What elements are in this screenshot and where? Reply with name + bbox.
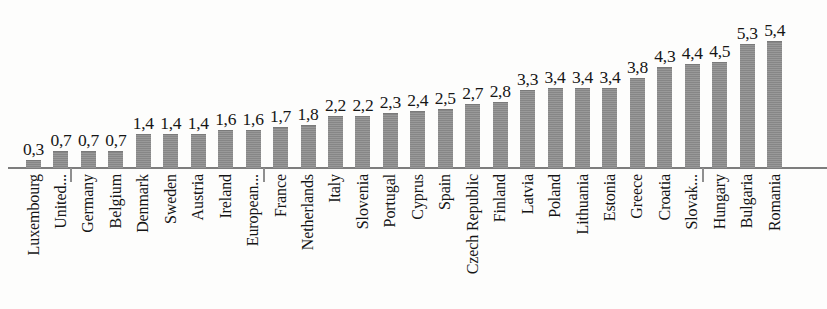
axis-tick-1 (70, 168, 72, 182)
category-label-text: Denmark (135, 174, 151, 233)
category-label-text: United... (53, 174, 69, 229)
category-label-text: Germany (80, 174, 96, 233)
bar-rect (301, 125, 316, 168)
bar-rect (410, 111, 425, 168)
bar-bulgaria: 5,3 (740, 45, 755, 168)
bar-value-label: 0,3 (23, 141, 44, 159)
category-label-text: Lithuania (575, 174, 591, 234)
category-label-10: France (273, 174, 288, 304)
bar-rect (53, 151, 68, 168)
bar-value-label: 0,7 (78, 132, 99, 150)
bar-rect (602, 88, 617, 168)
bar-italy: 2,2 (328, 117, 343, 168)
bar-rect (191, 134, 206, 168)
category-label-6: Sweden (163, 174, 178, 304)
bar-chart: 0,30,70,70,71,41,41,41,61,61,71,82,22,22… (0, 0, 827, 309)
category-label-26: Hungary (712, 174, 727, 304)
bar-rect (548, 88, 563, 168)
category-label-text: Sweden (163, 174, 179, 224)
category-label-text: Slovenia (355, 174, 371, 229)
bar-portugal: 2,3 (383, 114, 398, 168)
category-label-text: France (273, 174, 289, 217)
bar-value-label: 4,4 (682, 45, 703, 63)
category-label-28: Romania (767, 174, 782, 304)
category-label-text: Czech Republic (465, 174, 481, 274)
bar-luxembourg: 0,3 (26, 161, 41, 168)
bar-rect (740, 44, 755, 168)
bar-greece: 3,8 (630, 79, 645, 168)
bar-sweden: 1,4 (163, 135, 178, 168)
bar-value-label: 5,4 (764, 22, 785, 40)
category-label-9: European... (246, 174, 261, 304)
category-label-11: Netherlands (301, 174, 316, 304)
bar-value-label: 1,6 (215, 111, 236, 129)
bar-rect (383, 113, 398, 168)
bar-united: 0,7 (53, 152, 68, 168)
axis-tick-2 (263, 168, 265, 182)
bar-finland: 2,8 (493, 103, 508, 168)
bar-value-label: 2,8 (490, 83, 511, 101)
category-label-7: Austria (191, 174, 206, 304)
bar-romania: 5,4 (767, 42, 782, 168)
category-label-14: Portugal (383, 174, 398, 304)
bar-value-label: 2,7 (462, 85, 483, 103)
bar-czech-republic: 2,7 (465, 105, 480, 168)
bar-denmark: 1,4 (136, 135, 151, 168)
bar-rect (712, 62, 727, 168)
category-label-4: Belgium (108, 174, 123, 304)
bar-latvia: 3,3 (520, 91, 535, 168)
axis-tick-3 (702, 168, 704, 182)
category-label-text: Estonia (602, 174, 618, 221)
bar-value-label: 2,2 (352, 97, 373, 115)
bar-rect (246, 130, 261, 168)
bar-rect (163, 134, 178, 168)
bar-hungary: 4,5 (712, 63, 727, 168)
category-label-text: Austria (190, 174, 206, 220)
bar-value-label: 0,7 (105, 132, 126, 150)
category-label-5: Denmark (136, 174, 151, 304)
bar-croatia: 4,3 (657, 68, 672, 168)
bar-rect (136, 134, 151, 168)
bar-france: 1,7 (273, 128, 288, 168)
bar-rect (575, 88, 590, 168)
category-label-27: Bulgaria (740, 174, 755, 304)
category-label-text: Romania (767, 174, 783, 231)
category-label-text: Italy (327, 174, 343, 203)
category-label-2: United... (53, 174, 68, 304)
category-label-text: Belgium (108, 174, 124, 228)
bar-rect (218, 130, 233, 168)
bar-value-label: 1,4 (188, 115, 209, 133)
bar-rect (657, 67, 672, 168)
bar-rect (81, 151, 96, 168)
category-label-text: Ireland (218, 174, 234, 219)
bar-austria: 1,4 (191, 135, 206, 168)
bar-netherlands: 1,8 (301, 126, 316, 168)
category-label-18: Finland (493, 174, 508, 304)
bar-slovenia: 2,2 (355, 117, 370, 168)
bar-value-label: 1,6 (243, 111, 264, 129)
bar-germany: 0,7 (81, 152, 96, 168)
bar-value-label: 3,4 (599, 69, 620, 87)
bar-value-label: 5,3 (737, 25, 758, 43)
bar-value-label: 3,3 (517, 71, 538, 89)
bar-spain: 2,5 (438, 110, 453, 168)
bar-rect (273, 127, 288, 168)
bar-rect (438, 109, 453, 168)
bar-rect (520, 90, 535, 168)
bar-value-label: 2,2 (325, 97, 346, 115)
category-label-16: Spain (438, 174, 453, 304)
category-label-25: Slovak... (685, 174, 700, 304)
bar-value-label: 1,8 (298, 106, 319, 124)
category-label-text: Portugal (382, 174, 398, 227)
category-label-19: Latvia (520, 174, 535, 304)
category-label-23: Greece (630, 174, 645, 304)
category-label-8: Ireland (218, 174, 233, 304)
bar-european: 1,6 (246, 131, 261, 168)
bar-rect (493, 102, 508, 168)
category-label-1: Luxembourg (26, 174, 41, 304)
category-label-22: Estonia (602, 174, 617, 304)
category-label-text: Spain (437, 174, 453, 210)
category-label-text: Hungary (712, 174, 728, 229)
category-label-text: Greece (629, 174, 645, 219)
bar-slovak: 4,4 (685, 65, 700, 168)
